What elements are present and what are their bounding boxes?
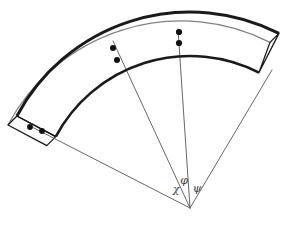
dot-cap-left-a [27, 124, 33, 130]
dot-psi-outer [176, 29, 182, 35]
geometry-diagram: χ φ ψ [0, 0, 291, 228]
band-body [17, 12, 279, 137]
ray-chi [28, 125, 190, 208]
angle-label-psi: ψ [193, 182, 202, 195]
figure-container: χ φ ψ [0, 0, 291, 228]
dot-cap-left-b [39, 128, 45, 134]
angle-label-phi: φ [180, 174, 188, 187]
dot-psi-inner [176, 40, 182, 46]
dot-phi-outer [110, 45, 116, 51]
dot-phi-inner [114, 57, 120, 63]
ray-edge-right [190, 70, 272, 208]
annular-band-fill [17, 12, 279, 137]
